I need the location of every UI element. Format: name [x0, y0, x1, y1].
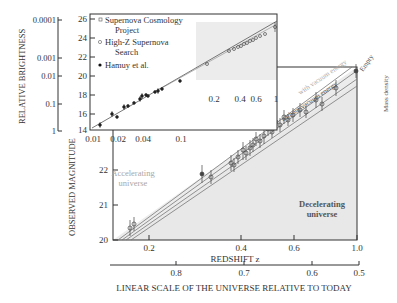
brightness-tick-0.1: 0.1 — [45, 99, 56, 109]
accelerating-label-2: universe — [119, 178, 148, 188]
inset-x-tick-0.02: 0.02 — [110, 134, 126, 144]
inset-x-tick-0.1: 0.1 — [175, 134, 186, 144]
scale-ticks — [176, 261, 359, 265]
inset-y-tick-26: 26 — [78, 14, 88, 24]
brightness-tick-0.0001: 0.0001 — [33, 15, 56, 25]
inset-y-tick-16: 16 — [78, 109, 88, 119]
scale-tick-0.7: 0.7 — [238, 268, 250, 278]
inset-x-tick-0.2: 0.2 — [208, 94, 219, 104]
legend-scp-1: Supernova Cosmology — [105, 15, 183, 25]
main-y-tick-21: 21 — [99, 200, 108, 210]
main-y-tick-20: 20 — [99, 235, 109, 245]
empty-label: Empty — [358, 53, 376, 73]
main-x-tick-0.2: 0.2 — [143, 243, 154, 253]
brightness-tick-1: 1 — [52, 126, 56, 136]
legend-hz-1: High-Z Supernova — [105, 37, 169, 47]
decelerating-label-2: universe — [307, 209, 338, 219]
brightness-tick-0.01: 0.01 — [41, 71, 56, 81]
legend-scp-2: Project — [115, 25, 140, 35]
inset-x-tick-0.01: 0.01 — [85, 134, 101, 144]
supernova-chart: 20 21 22 0.2 0.4 0.6 1.0 REDSHIFT z 0.8 … — [0, 0, 397, 303]
scale-tick-0.6: 0.6 — [306, 268, 318, 278]
mass-density-label: Mass density — [382, 75, 390, 112]
legend-hamuy: Hamuy et al. — [105, 60, 149, 70]
brightness-ticks — [58, 20, 62, 131]
inset-y-tick-18: 18 — [78, 90, 88, 100]
main-x-tick-0.6: 0.6 — [288, 243, 300, 253]
linear-scale-label: LINEAR SCALE OF THE UNIVERSE RELATIVE TO… — [116, 283, 352, 293]
legend-hz-2: Search — [115, 47, 139, 57]
inset-y-tick-20: 20 — [78, 71, 88, 81]
inset-y-tick-24: 24 — [78, 33, 88, 43]
main-x-tick-0.4: 0.4 — [235, 243, 247, 253]
observed-magnitude-label: OBSERVED MAGNITUDE — [67, 138, 77, 236]
inset-x-tick-0.6: 0.6 — [250, 94, 262, 104]
relative-brightness-label: RELATIVE BRIGHTNESS — [17, 29, 27, 124]
main-y-tick-22: 22 — [99, 165, 108, 175]
redshift-axis-label: REDSHIFT z — [210, 254, 259, 264]
inset-x-tick-1: 1 — [274, 94, 279, 104]
scale-tick-0.8: 0.8 — [170, 268, 182, 278]
accelerating-label-1: Accelerating — [111, 168, 155, 178]
legend-filled-circle-icon — [98, 63, 101, 66]
inset-x-tick-0.04: 0.04 — [135, 134, 151, 144]
decelerating-label-1: Decelerating — [299, 199, 346, 209]
main-y-ticks — [113, 170, 118, 240]
inset-y-tick-22: 22 — [78, 52, 87, 62]
scale-tick-0.5: 0.5 — [353, 268, 365, 278]
main-x-tick-1.0: 1.0 — [351, 243, 363, 253]
brightness-tick-0.001: 0.001 — [37, 53, 56, 63]
inset-x-tick-0.4: 0.4 — [234, 94, 246, 104]
